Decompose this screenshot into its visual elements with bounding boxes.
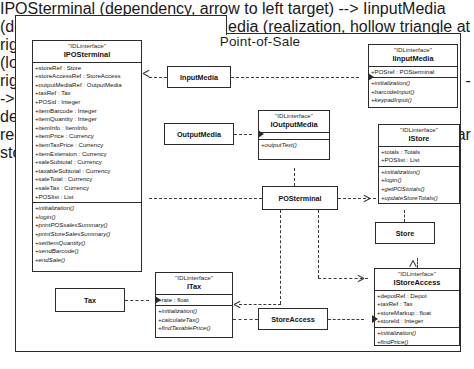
- realization-arrowhead: [362, 73, 368, 81]
- operation-compartment: +initialization() +calculateTax() +findT…: [156, 305, 232, 334]
- operation: +setItemQuantity(): [35, 239, 140, 248]
- connector-posterminal-to-istoreaccess-vertical: [318, 210, 319, 278]
- class-header: "IDLinterface" IinputMedia: [369, 45, 457, 66]
- stereotype-label: "IDLinterface": [371, 47, 455, 54]
- realization-arrowhead: [149, 296, 155, 304]
- operation: +findPrice(): [377, 338, 458, 347]
- operation: +updateStoreTotals(): [381, 194, 458, 203]
- component-store[interactable]: Store: [375, 222, 435, 244]
- operation: +barcodeInput(): [371, 88, 456, 97]
- attribute: +itemInfo : ItemInfo: [35, 124, 140, 133]
- attribute: +taxRef : Tax: [377, 300, 458, 309]
- attribute: +outputMediaRef : OutputMedia: [35, 81, 140, 90]
- diagram-title: Point-of-Sale: [180, 34, 340, 49]
- operation: +keypadInput(): [371, 96, 456, 105]
- dependency-arrowhead: [413, 256, 420, 265]
- attribute: +POSlist : List: [381, 156, 458, 165]
- class-header: "IDLinterface" ITax: [156, 273, 232, 294]
- operation: +login(): [381, 176, 458, 185]
- attribute-compartment: +totals : Totals +POSlist : List: [379, 146, 459, 166]
- component-storeaccess[interactable]: StoreAccess: [258, 308, 328, 330]
- attribute: +rate : float: [158, 296, 231, 305]
- attribute: +taxableSubtotal : Currency: [35, 167, 140, 176]
- connector-outputmedia-to-ioutputmedia: [234, 134, 252, 135]
- operation: +sendBarcode(): [35, 247, 140, 256]
- class-name: IStore: [381, 135, 457, 143]
- component-inputmedia[interactable]: InputMedia: [167, 66, 231, 88]
- attribute: +storeMarkup : float: [377, 309, 458, 318]
- class-name: IStoreAccess: [377, 279, 457, 287]
- attribute: +itemTaxPrice : Currency: [35, 141, 140, 150]
- dependency-arrowhead: [234, 300, 241, 309]
- operation-compartment: +outputText(): [259, 139, 329, 151]
- class-header: "IDLinterface" IStore: [379, 125, 459, 146]
- attribute-compartment: +storeRef : Store +storeAccessRef : Stor…: [33, 62, 141, 203]
- operation: +initialization(): [381, 168, 458, 177]
- operation-compartment: +initialization() +login() +getPOStotals…: [379, 166, 459, 203]
- class-itax[interactable]: "IDLinterface" ITax +rate : float +initi…: [155, 272, 233, 338]
- realization-arrowhead: [290, 161, 298, 167]
- class-iinputmedia[interactable]: "IDLinterface" IinputMedia +POSref : POS…: [368, 44, 458, 108]
- realization-arrowhead: [143, 194, 149, 202]
- class-header: "IDLinterface" IOutputMedia: [259, 111, 329, 132]
- connector-storeaccess-to-istoreaccess: [328, 319, 364, 320]
- connector-posterminal-to-itax-horizontal: [239, 304, 281, 305]
- dependency-arrowhead: [370, 194, 377, 203]
- connector-tax-to-itax: [125, 300, 149, 301]
- attribute: +taxRef : Tax: [35, 89, 140, 98]
- stereotype-label: "IDLinterface": [381, 127, 457, 134]
- class-header: "IDLinterface" IStoreAccess: [375, 269, 459, 290]
- attribute: +itemExtension : Currency: [35, 150, 140, 159]
- operation: +outputText(): [261, 141, 328, 150]
- attribute: +itemBarcode : Integer: [35, 107, 140, 116]
- class-header: "IDLinterface" IPOSterminal: [33, 41, 141, 62]
- component-outputmedia[interactable]: OutputMedia: [164, 123, 234, 145]
- attribute-compartment: +POSref : POSterminal: [369, 66, 457, 78]
- operation: +initialization(): [158, 307, 231, 316]
- attribute: +itemPrice : Currency: [35, 132, 140, 141]
- stereotype-label: "IDLinterface": [35, 43, 139, 50]
- connector-storeaccess-to-itax: [233, 319, 258, 320]
- operation: +initialization(): [371, 79, 456, 88]
- stereotype-label: "IDLinterface": [377, 271, 457, 278]
- attribute: +storeId : Integer: [377, 317, 458, 326]
- uml-class-diagram: Point-of-Sale "IDLinterface" IPOStermina…: [0, 0, 474, 369]
- operation: +findTaxablePrice(): [158, 324, 231, 333]
- class-istoreaccess[interactable]: "IDLinterface" IStoreAccess +depotRef : …: [374, 268, 460, 346]
- class-iposterminal[interactable]: "IDLinterface" IPOSterminal +storeRef : …: [32, 40, 142, 272]
- operation: +login(): [35, 213, 140, 222]
- connector-inputmedia-to-iposterminal: [149, 77, 167, 78]
- connector-posterminal-to-ioutputmedia: [294, 168, 295, 186]
- operation-compartment: +initialization() +barcodeInput() +keypa…: [369, 77, 457, 106]
- class-istore[interactable]: "IDLinterface" IStore +totals : Totals +…: [378, 124, 460, 204]
- connector-store-to-istore: [404, 210, 405, 222]
- operation: +initialization(): [35, 204, 140, 213]
- attribute: +saleTotal : Currency: [35, 175, 140, 184]
- attribute: +POSid : Integer: [35, 98, 140, 107]
- operation-compartment: +initialization() +login() +printPOSsale…: [33, 202, 141, 265]
- attribute: +POSref : POSterminal: [371, 68, 456, 77]
- operation: +endSale(): [35, 256, 140, 265]
- operation: +calculateTax(): [158, 316, 231, 325]
- operation: +initialization(): [377, 329, 458, 338]
- attribute-compartment: +rate : float: [156, 294, 232, 306]
- operation: +printPOSsalesSummary(): [35, 221, 140, 230]
- class-name: ITax: [158, 283, 230, 291]
- connector-posterminal-to-iposterminal: [149, 198, 262, 199]
- component-posterminal[interactable]: POSterminal: [262, 186, 338, 210]
- component-tax[interactable]: Tax: [55, 288, 125, 312]
- attribute: +totals : Totals: [381, 148, 458, 157]
- stereotype-label: "IDLinterface": [158, 275, 230, 282]
- stereotype-label: "IDLinterface": [261, 113, 327, 120]
- dependency-arrowhead: [364, 274, 371, 283]
- attribute-compartment: [259, 132, 329, 139]
- realization-arrowhead: [366, 315, 372, 323]
- realization-arrowhead: [400, 204, 408, 210]
- class-ioutputmedia[interactable]: "IDLinterface" IOutputMedia +outputText(…: [258, 110, 330, 160]
- realization-arrowhead: [252, 130, 258, 138]
- attribute: +itemQuantity : Integer: [35, 115, 140, 124]
- attribute-compartment: +depotRef : Depot +taxRef : Tax +storeMa…: [375, 290, 459, 327]
- class-name: IOutputMedia: [261, 121, 327, 129]
- attribute: +storeAccessRef : StoreAccess: [35, 72, 140, 81]
- attribute: +saleTax : Currency: [35, 184, 140, 193]
